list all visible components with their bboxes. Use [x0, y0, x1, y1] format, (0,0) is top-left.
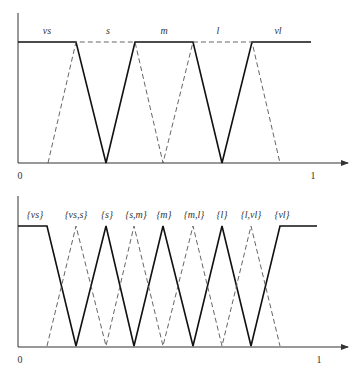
top-label-vl: vl [274, 25, 281, 36]
bottom-label-4: {m} [156, 209, 171, 220]
top-x-max: 1 [311, 170, 316, 181]
bottom-x-min: 0 [18, 354, 23, 365]
bottom-label-1: {vs,s} [65, 209, 88, 220]
bottom-label-8: {vl} [274, 209, 289, 220]
top-chart: vs s m l vl 0 1 [18, 13, 349, 181]
bottom-x-max: 1 [317, 354, 322, 365]
top-label-m: m [160, 25, 167, 36]
fuzzy-membership-diagram: vs s m l vl 0 1 {vs} {vs,s} {s} {s,m} {m… [0, 0, 364, 376]
bottom-label-3: {s,m} [125, 209, 147, 220]
bottom-chart: {vs} {vs,s} {s} {s,m} {m} {m,l} {l} {l,v… [18, 196, 349, 365]
top-solid-memberships [18, 42, 311, 163]
top-label-vs: vs [43, 25, 51, 36]
top-x-min: 0 [18, 170, 23, 181]
bottom-dashed-memberships [47, 226, 280, 346]
top-label-l: l [217, 25, 220, 36]
bottom-label-7: {l,vl} [241, 209, 262, 220]
bottom-label-0: {vs} [27, 209, 43, 220]
top-dashed-memberships [48, 42, 280, 163]
bottom-label-5: {m,l} [184, 209, 205, 220]
bottom-label-2: {s} [101, 209, 113, 220]
top-label-s: s [106, 25, 110, 36]
bottom-label-6: {l} [217, 209, 228, 220]
